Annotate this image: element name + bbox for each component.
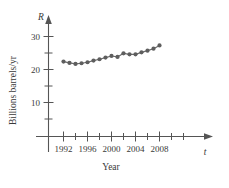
x-tick-label-1992: 1992 [55, 144, 73, 154]
y-tick-label-10: 10 [31, 98, 41, 108]
data-point [79, 61, 83, 65]
data-point [91, 58, 95, 62]
y-axis-arrow-icon [45, 15, 52, 24]
data-point [73, 62, 77, 66]
x-axis-arrow-icon [204, 133, 213, 140]
data-point [127, 52, 131, 56]
y-axis [45, 15, 52, 152]
line-chart: 30 20 10 R Billions barrels/yr 1992 1996… [0, 0, 229, 188]
data-point [109, 54, 113, 58]
data-point [85, 60, 89, 64]
data-point [145, 49, 149, 53]
y-tick-label-30: 30 [31, 32, 41, 42]
data-point [151, 47, 155, 51]
y-axis-variable-label: R [37, 12, 44, 22]
data-series-points [61, 43, 161, 66]
x-tick-label-2004: 2004 [127, 144, 146, 154]
data-point [157, 43, 161, 47]
y-tick-label-20: 20 [31, 65, 41, 75]
x-axis [36, 133, 213, 140]
data-point [67, 61, 71, 65]
x-tick-label-2008: 2008 [151, 144, 170, 154]
x-tick-label-2000: 2000 [103, 144, 122, 154]
x-tick-label-1996: 1996 [79, 144, 98, 154]
x-axis-variable-label: t [204, 147, 207, 157]
y-axis-title: Billions barrels/yr [8, 55, 18, 125]
data-point [115, 55, 119, 59]
x-axis-title: Year [102, 162, 120, 172]
chart-figure: 30 20 10 R Billions barrels/yr 1992 1996… [0, 0, 229, 188]
data-point [61, 59, 65, 63]
data-point [133, 52, 137, 56]
data-point [97, 57, 101, 61]
data-point [139, 50, 143, 54]
data-point [121, 51, 125, 55]
data-point [103, 56, 107, 60]
